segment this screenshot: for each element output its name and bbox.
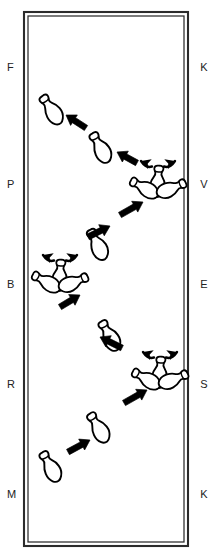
arrow-body bbox=[117, 197, 146, 221]
edge-label-right-s-3: S bbox=[200, 379, 208, 390]
curved-arrow-cluster1-left bbox=[139, 156, 152, 169]
curved-arrow-cluster2-right bbox=[66, 250, 79, 263]
cluster-2 bbox=[29, 259, 90, 296]
edge-label-right-k-0: K bbox=[200, 62, 208, 73]
edge-label-left-r-3: R bbox=[7, 379, 15, 390]
pin-2 bbox=[85, 130, 115, 166]
arrow-body bbox=[114, 147, 140, 169]
pin-1 bbox=[36, 92, 68, 128]
arrow-body bbox=[121, 385, 150, 409]
arrow-7 bbox=[121, 385, 150, 409]
cluster-1 bbox=[127, 165, 188, 202]
arrow-5 bbox=[57, 290, 83, 313]
edge-label-right-e-2: E bbox=[200, 279, 208, 290]
arrow-2 bbox=[114, 147, 140, 169]
curved-arrow-cluster3-right bbox=[166, 347, 179, 360]
curved-arrow-cluster1-right bbox=[164, 156, 177, 169]
diagram-canvas bbox=[0, 0, 214, 558]
arrow-body bbox=[63, 110, 90, 133]
pin-outline bbox=[36, 92, 68, 128]
arrow-3 bbox=[117, 197, 146, 221]
edge-label-right-k-4: K bbox=[200, 489, 208, 500]
edge-label-left-m-4: M bbox=[7, 489, 16, 500]
pin-outline bbox=[35, 449, 65, 485]
pin-deflection-diagram bbox=[0, 0, 214, 558]
edge-label-left-p-1: P bbox=[7, 179, 15, 190]
curved-arrow-cluster3-left bbox=[141, 347, 154, 360]
arrow-body bbox=[65, 435, 93, 458]
edge-label-left-f-0: F bbox=[7, 62, 14, 73]
arrow-body bbox=[57, 290, 83, 313]
edge-label-right-v-1: V bbox=[200, 179, 208, 190]
curved-arrow-cluster2-left bbox=[41, 250, 54, 263]
pin-outline bbox=[85, 130, 115, 166]
arrow-1 bbox=[63, 110, 90, 133]
pin-6 bbox=[35, 449, 65, 485]
cluster-3 bbox=[129, 356, 190, 393]
edge-label-left-b-2: B bbox=[7, 279, 15, 290]
arrow-8 bbox=[65, 435, 93, 458]
